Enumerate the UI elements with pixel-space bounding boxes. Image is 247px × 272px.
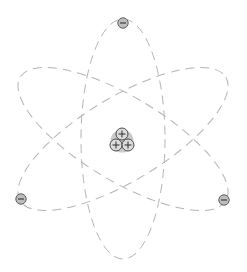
proton-bottom-left	[110, 139, 122, 151]
atom-diagram	[0, 0, 247, 272]
proton-top	[116, 128, 128, 140]
electron-top	[118, 18, 128, 28]
proton-bottom-right	[122, 139, 134, 151]
nucleus	[110, 128, 134, 153]
electron-bottom-right	[219, 195, 229, 205]
electron-bottom-left	[16, 194, 26, 204]
